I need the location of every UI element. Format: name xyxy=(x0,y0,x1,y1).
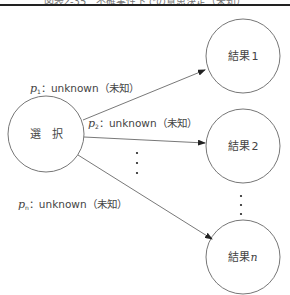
result-node-1: 結果1 xyxy=(206,19,280,93)
result-2-index: 2 xyxy=(252,140,259,153)
choice-node: 選 択 xyxy=(8,96,84,172)
result-1-label: 結果 xyxy=(228,49,250,63)
edge-label-n: pn：unknown（未知） xyxy=(18,198,127,211)
choice-label: 選 択 xyxy=(30,127,63,141)
result-node-2: 結果2 xyxy=(206,109,280,183)
edge-to-result-2 xyxy=(84,137,205,143)
result-ellipsis xyxy=(240,195,242,215)
result-n-index: n xyxy=(250,251,257,264)
edge-label-2: p2：unknown（未知） xyxy=(88,117,197,130)
svg-text:結果n: 結果n xyxy=(228,250,257,264)
result-1-index: 1 xyxy=(252,50,259,63)
svg-text:結果1: 結果1 xyxy=(228,49,259,63)
edge-label-1: p1：unknown（未知） xyxy=(30,82,139,95)
edge-ellipsis xyxy=(136,152,138,174)
decision-diagram: 選 択 結果1 結果2 結果n p1：unknown（未知） p2：unknow… xyxy=(0,0,290,295)
result-2-label: 結果 xyxy=(228,139,250,153)
result-node-n: 結果n xyxy=(206,220,280,294)
edge-to-result-n xyxy=(78,155,212,239)
svg-text:結果2: 結果2 xyxy=(228,139,259,153)
edge-to-result-1 xyxy=(83,70,205,120)
result-n-label: 結果 xyxy=(228,250,250,264)
